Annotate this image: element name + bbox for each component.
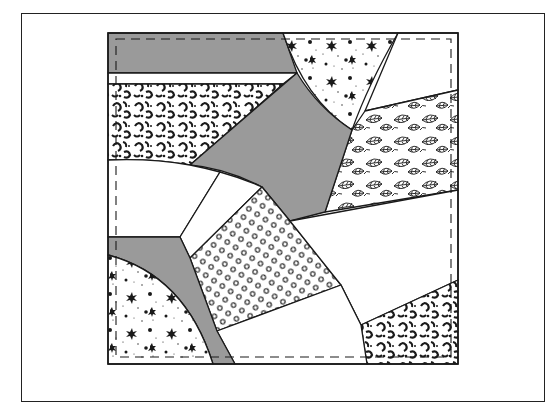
quilt-block	[0, 0, 548, 411]
patch-white-top-strip	[108, 73, 297, 84]
